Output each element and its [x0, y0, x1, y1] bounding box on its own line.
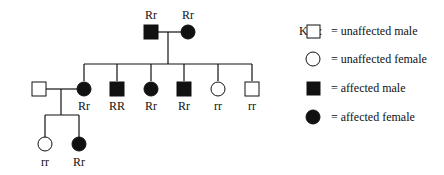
pedigree-chart: Rr Rr Rr RR Rr Rr rr rr rr Rr Key: = una… [0, 0, 444, 175]
affected-male-symbol [144, 25, 158, 39]
genotype-label: RR [109, 99, 125, 113]
unaffected-female-symbol [38, 137, 52, 151]
legend-label: = affected female [331, 110, 415, 124]
affected-female-symbol [144, 82, 158, 96]
unaffected-male-key-icon [307, 25, 320, 38]
genotype-label: Rr [145, 99, 157, 113]
genotype-label: Rr [78, 99, 90, 113]
genotype-label: Rr [178, 99, 190, 113]
legend: Key: = unaffected male = unaffected fema… [299, 24, 427, 124]
unaffected-female-key-icon [306, 52, 320, 66]
genotype-label: rr [41, 155, 49, 169]
affected-female-symbol [181, 25, 195, 39]
genotype-label: rr [248, 99, 256, 113]
genotype-label: Rr [182, 8, 194, 22]
legend-label: = unaffected male [331, 24, 418, 38]
affected-female-symbol [72, 137, 86, 151]
affected-male-key-icon [307, 82, 320, 95]
affected-female-key-icon [306, 110, 320, 124]
unaffected-female-symbol [211, 82, 225, 96]
affected-male-symbol [177, 82, 191, 96]
legend-label: = unaffected female [331, 52, 427, 66]
unaffected-male-symbol [32, 82, 46, 96]
affected-male-symbol [110, 82, 124, 96]
genotype-label: rr [214, 99, 222, 113]
genotype-label: Rr [145, 8, 157, 22]
affected-female-symbol [77, 82, 91, 96]
legend-label: = affected male [331, 81, 406, 95]
unaffected-male-symbol [245, 82, 259, 96]
genotype-label: Rr [73, 155, 85, 169]
